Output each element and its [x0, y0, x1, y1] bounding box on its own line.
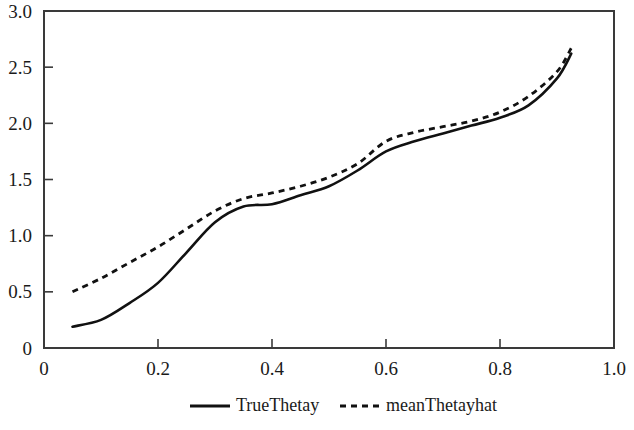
y-tick-label: 2.5 — [8, 57, 32, 78]
x-tick-label: 0.8 — [488, 358, 512, 379]
legend-label-1: meanThetayhat — [386, 395, 497, 415]
x-tick-label: 0 — [39, 358, 49, 379]
x-axis-tick-labels: 00.20.40.60.81.0 — [39, 358, 626, 379]
chart-canvas: 00.51.01.52.02.53.0 00.20.40.60.81.0 Tru… — [0, 0, 634, 430]
line-chart-figure: 00.51.01.52.02.53.0 00.20.40.60.81.0 Tru… — [0, 0, 634, 430]
legend-label-0: TrueThetay — [236, 395, 319, 415]
x-tick-label: 0.4 — [260, 358, 284, 379]
chart-legend: TrueThetaymeanThetayhat — [190, 395, 497, 415]
x-tick-label: 1.0 — [602, 358, 626, 379]
y-tick-label: 1.5 — [8, 169, 32, 190]
x-tick-label: 0.6 — [374, 358, 398, 379]
series-line-1 — [73, 48, 572, 292]
plot-frame — [44, 11, 614, 348]
y-tick-label: 1.0 — [8, 225, 32, 246]
x-axis-ticks — [158, 339, 500, 348]
data-series-group — [73, 48, 572, 327]
x-tick-label: 0.2 — [146, 358, 170, 379]
y-axis-ticks — [44, 67, 53, 292]
y-tick-label: 0 — [23, 338, 33, 359]
y-tick-label: 2.0 — [8, 113, 32, 134]
y-tick-label: 0.5 — [8, 281, 32, 302]
series-line-0 — [73, 54, 572, 327]
y-axis-tick-labels: 00.51.01.52.02.53.0 — [8, 1, 32, 359]
y-tick-label: 3.0 — [8, 1, 32, 22]
